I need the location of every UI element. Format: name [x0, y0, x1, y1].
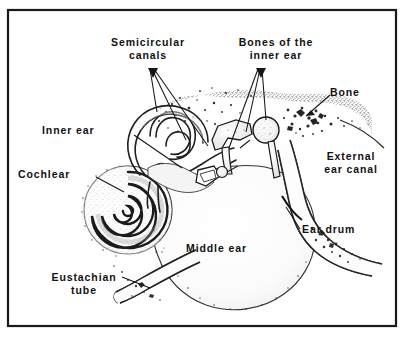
- ear-anatomy-figure: [0, 0, 404, 345]
- ear-anatomy-illustration: [0, 0, 404, 345]
- figure-caption-fragment: [6, 336, 186, 344]
- stapes-head: [217, 167, 228, 178]
